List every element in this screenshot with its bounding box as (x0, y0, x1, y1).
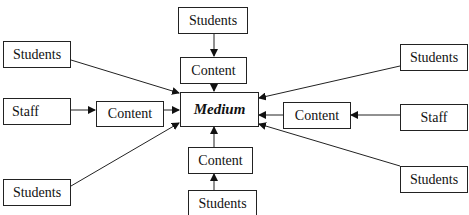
node-label: Students (13, 47, 61, 63)
node-label: Students (198, 196, 246, 212)
node-label: Content (295, 108, 339, 124)
node-top-content: Content (180, 57, 247, 84)
node-label: Content (198, 153, 242, 169)
node-top-students: Students (178, 7, 248, 34)
edge-bottom-left-students-to-medium (71, 123, 179, 186)
node-medium: Medium (180, 92, 259, 127)
node-left-students: Students (3, 41, 71, 68)
node-left-staff: Staff (3, 98, 71, 125)
edge-left-students-to-medium (71, 60, 179, 93)
node-right-staff: Staff (400, 104, 468, 131)
node-left-content: Content (96, 101, 164, 127)
node-label: Content (191, 63, 235, 79)
edge-right-top-students-to-medium (259, 66, 400, 98)
node-right-content: Content (283, 102, 351, 129)
node-right-bottom-students: Students (400, 166, 468, 193)
node-label: Medium (194, 101, 246, 118)
node-label: Students (410, 172, 458, 188)
node-label: Students (189, 13, 237, 29)
node-label: Staff (421, 110, 448, 126)
node-bottom-content: Content (188, 147, 253, 174)
edge-right-bottom-students-to-medium (259, 124, 400, 166)
node-label: Content (108, 106, 152, 122)
node-label: Students (410, 50, 458, 66)
node-bottom-left-students: Students (3, 179, 71, 206)
node-label: Staff (12, 104, 39, 120)
node-bottom-students: Students (188, 190, 257, 215)
node-label: Students (13, 185, 61, 201)
node-right-top-students: Students (400, 44, 468, 71)
